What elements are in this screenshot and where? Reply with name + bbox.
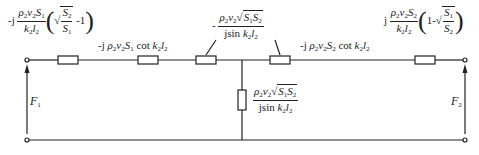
arrowhead-1-icon <box>25 64 30 73</box>
terminal-2-bottom <box>463 138 467 142</box>
impedance-shunt <box>238 90 246 110</box>
label-shunt: ρ2v2√S1S2jsin k2l2 <box>253 86 298 115</box>
label-z3: - ρ2v2√S1S2jsin k2l2 <box>212 12 264 41</box>
label-z1: -j ρ2v2S1k2l2(√S2S1 -1) <box>8 6 94 36</box>
impedance-z1 <box>58 56 78 64</box>
arrowhead-2-icon <box>463 64 468 73</box>
terminal-1-bottom <box>25 138 29 142</box>
label-z2: -j ρ2v2S1 cot k2l2 <box>98 40 168 53</box>
impedance-z2 <box>138 56 158 64</box>
label-F1: F1 <box>30 95 41 109</box>
label-F2: F2 <box>451 95 462 109</box>
impedance-z5 <box>415 56 435 64</box>
terminal-1-top <box>25 58 29 62</box>
impedance-z3 <box>196 56 216 64</box>
label-z4: -j ρ2v2S2 cot k2l2 <box>300 40 370 53</box>
label-z5: j ρ2v2S2k2l2(1-√S1S2) <box>384 6 464 36</box>
terminal-2-top <box>463 58 467 62</box>
impedance-z4 <box>270 56 290 64</box>
